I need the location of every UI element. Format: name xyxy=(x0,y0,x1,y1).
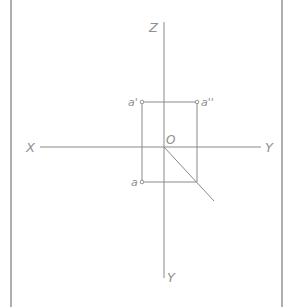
point-a xyxy=(140,180,144,184)
y-axis-right-label: Y xyxy=(265,140,274,155)
x-axis-label: X xyxy=(25,140,36,155)
point-a-prime xyxy=(140,100,144,104)
point-a-prime-label: a' xyxy=(128,96,138,109)
point-a-double-prime-label: a'' xyxy=(201,96,214,109)
origin-label: O xyxy=(166,133,175,147)
projection-diagram: Z X Y Y O a' a'' a xyxy=(0,0,285,307)
point-a-label: a xyxy=(131,176,138,189)
y-axis-bottom-label: Y xyxy=(167,270,176,285)
diagonal-45-line xyxy=(164,147,214,201)
point-a-double-prime xyxy=(195,100,199,104)
z-axis-label: Z xyxy=(148,20,159,35)
